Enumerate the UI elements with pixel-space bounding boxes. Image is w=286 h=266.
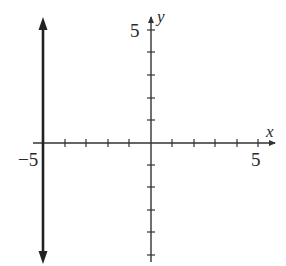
x-axis-label: x bbox=[265, 122, 274, 141]
arrow-down-icon bbox=[39, 251, 48, 264]
y-axis bbox=[147, 17, 155, 262]
graph-line-x-equals-minus-5 bbox=[39, 17, 48, 264]
arrow-up-icon bbox=[39, 17, 48, 30]
x-axis bbox=[33, 139, 275, 147]
coordinate-plane: x y −5 5 5 bbox=[0, 0, 286, 266]
x-min-tick-label: −5 bbox=[18, 149, 38, 170]
y-axis-label: y bbox=[155, 7, 165, 26]
x-max-tick-label: 5 bbox=[251, 149, 261, 170]
y-max-tick-label: 5 bbox=[130, 20, 140, 41]
